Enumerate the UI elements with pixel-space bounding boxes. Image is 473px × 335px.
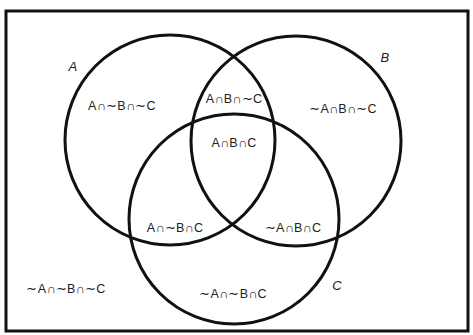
region-a-only: A∩∼B∩∼C	[88, 98, 156, 113]
set-b-label: B	[381, 50, 390, 65]
region-abc: A∩B∩C	[211, 136, 256, 150]
region-ac-only: A∩∼B∩C	[147, 220, 203, 235]
region-c-only: ∼A∩∼B∩C	[199, 286, 267, 301]
region-ab-only: A∩B∩∼C	[206, 91, 262, 106]
set-a-label: A	[69, 59, 78, 74]
region-bc-only: ∼A∩B∩C	[265, 220, 321, 235]
region-b-only: ∼A∩B∩∼C	[309, 101, 377, 116]
set-c-label: C	[332, 278, 342, 293]
region-none: ∼A∩∼B∩∼C	[26, 281, 105, 296]
